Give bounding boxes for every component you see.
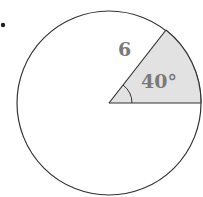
radius-label: 6 — [118, 38, 131, 60]
angle-label: 40° — [141, 70, 177, 92]
bullet-dot — [1, 23, 5, 27]
sector-diagram: 6 40° — [0, 0, 203, 197]
